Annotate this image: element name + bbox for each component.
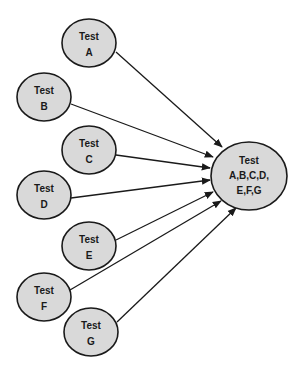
node-label-line1: Test [34,285,54,296]
node-label-line2: E [86,250,93,261]
node-test-g: Test G [64,308,118,356]
node-label-line2: B [40,101,47,112]
edge-a-to-target [116,52,222,147]
node-label-line1: Test [34,85,54,96]
node-label-line1: Test [34,183,54,194]
node-label-line2: D [40,199,47,210]
node-label-line1: Test [79,31,99,42]
edge-d-to-target [71,180,210,198]
edge-c-to-target [116,155,210,168]
node-label-line2: F [41,301,47,312]
node-label-line1: Test [79,138,99,149]
node-label-line1: Test [81,320,101,331]
node-label-line2: C [85,154,92,165]
target-label-line1: Test [239,155,259,166]
edge-e-to-target [116,192,213,240]
edge-g-to-target [117,208,236,322]
node-label-line1: Test [79,234,99,245]
node-label-line2: A [85,47,92,58]
node-test-c: Test C [62,126,116,174]
node-label-line2: G [87,336,95,347]
node-test-e: Test E [62,222,116,270]
node-test-a: Test A [62,19,116,67]
node-test-d: Test D [17,171,71,219]
node-test-f: Test F [17,273,71,321]
target-label-line2: A,B,C,D, [229,170,269,181]
node-test-combined: Test A,B,C,D, E,F,G [211,142,287,210]
target-label-line3: E,F,G [236,185,261,196]
node-test-b: Test B [17,73,71,121]
edges [70,52,236,322]
diagram-canvas: Test A Test B Test C Test D Test E Test … [0,0,290,371]
